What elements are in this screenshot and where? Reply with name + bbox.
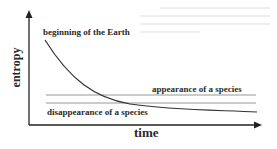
y-axis-label: entropy xyxy=(9,48,24,88)
x-axis-label: time xyxy=(134,125,159,141)
label-disappearance-of-species: disappearance of a species xyxy=(47,107,148,117)
label-beginning-of-earth: beginning of the Earth xyxy=(43,27,130,37)
faint-background-text xyxy=(140,8,270,32)
label-appearance-of-species: appearance of a species xyxy=(152,84,242,94)
y-axis-arrow-icon xyxy=(26,10,33,18)
entropy-curve xyxy=(45,40,257,112)
x-axis-arrow-icon xyxy=(254,122,262,129)
